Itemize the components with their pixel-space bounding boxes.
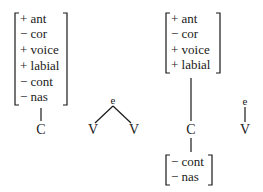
tree-right-v: V [127,123,141,137]
left-feature-labial: + labial [20,58,59,74]
right-upper-open-bracket [166,13,170,73]
tree-top-e: e [108,95,118,106]
link-top-e: e [240,96,250,107]
right-upper-close-bracket [216,13,220,73]
left-feature-cont: − cont [20,74,53,90]
link-bottom-v: V [238,123,252,137]
right-feature-labial: + labial [171,57,210,73]
left-feature-nas: − nas [20,89,48,105]
left-matrix-close-bracket [63,13,67,105]
right-feature-ant: + ant [171,11,197,27]
right-lower-open-bracket [166,155,170,185]
right-feature-cor: − cor [171,26,198,42]
left-feature-voice: + voice [20,42,59,58]
left-segment-c: C [34,123,48,137]
left-feature-ant: + ant [20,11,46,27]
tree-branch-left [95,106,113,123]
right-feature-voice: + voice [171,42,210,58]
right-feature-nas: − nas [171,169,199,185]
right-lower-close-bracket [208,155,212,185]
left-matrix-open-bracket [15,13,19,105]
tree-left-v: V [86,123,100,137]
left-feature-cor: − cor [20,26,47,42]
tree-branch-right [113,106,131,123]
right-segment-c: C [184,123,198,137]
right-feature-cont: − cont [171,154,204,170]
